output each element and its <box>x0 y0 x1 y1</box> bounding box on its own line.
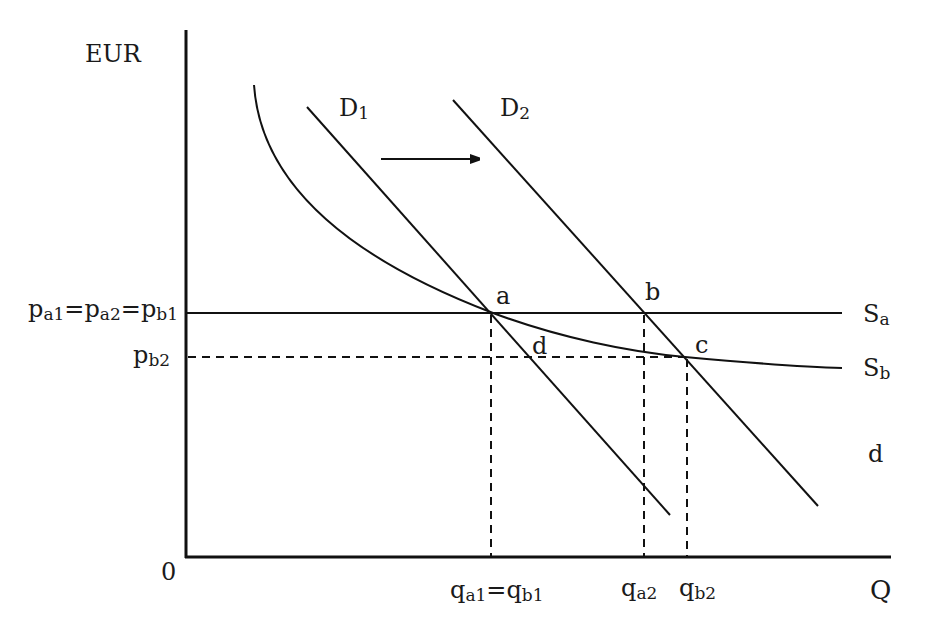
label-d2: D2 <box>500 96 530 122</box>
quantity-label-qa1-qb1: qa1=qb1 <box>450 578 544 604</box>
label-d-extra: d <box>868 442 883 466</box>
point-b-label: b <box>645 280 660 304</box>
y-axis-label: EUR <box>85 42 141 66</box>
quantity-label-qb2: qb2 <box>679 576 716 602</box>
point-d-label: d <box>532 334 547 358</box>
origin-label: 0 <box>161 560 176 584</box>
quantity-label-qa2: qa2 <box>621 576 657 602</box>
point-c-label: c <box>695 333 708 357</box>
demand-curve-1 <box>307 107 670 515</box>
price-label-low: pb2 <box>133 343 170 369</box>
x-axis-label: Q <box>870 577 891 603</box>
label-sb: Sb <box>863 356 890 382</box>
label-d1: D1 <box>339 96 369 122</box>
point-a-label: a <box>496 284 510 308</box>
price-label-high: pa1=pa2=pb1 <box>28 297 178 323</box>
label-sa: Sa <box>863 302 890 328</box>
supply-curve-b <box>254 85 842 368</box>
